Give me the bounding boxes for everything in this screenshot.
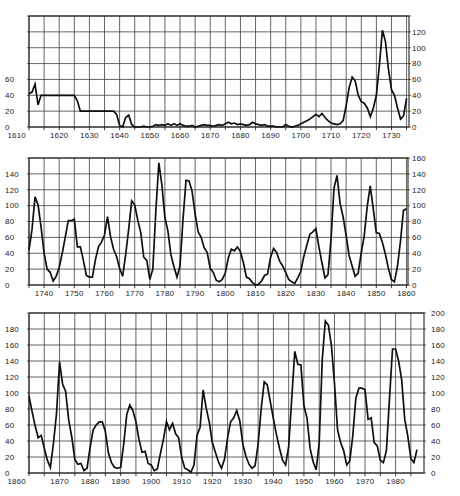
grid bbox=[27, 16, 411, 130]
y-tick-label: 0 bbox=[5, 469, 10, 478]
y-tick-labels-left: 140120100806040200 bbox=[5, 170, 19, 290]
x-tick-label: 1640 bbox=[110, 131, 129, 140]
y-tick-label: 20 bbox=[5, 107, 15, 116]
x-tick-label: 1770 bbox=[125, 289, 144, 298]
y-tick-label: 0 bbox=[431, 469, 436, 478]
x-tick-label: 1810 bbox=[246, 289, 265, 298]
x-tick-label: 1710 bbox=[322, 131, 341, 140]
y-tick-label: 120 bbox=[5, 186, 19, 195]
x-tick-label: 1980 bbox=[386, 477, 405, 486]
y-tick-label: 40 bbox=[412, 91, 422, 100]
y-tick-label: 120 bbox=[5, 373, 19, 382]
y-tick-label: 140 bbox=[412, 170, 426, 179]
y-tick-label: 40 bbox=[5, 437, 15, 446]
x-tick-label: 1830 bbox=[307, 289, 326, 298]
y-tick-label: 0 bbox=[412, 281, 417, 290]
y-tick-label: 120 bbox=[412, 186, 426, 195]
y-tick-label: 120 bbox=[431, 373, 445, 382]
y-tick-label: 100 bbox=[431, 389, 445, 398]
y-tick-label: 160 bbox=[412, 154, 426, 163]
x-tick-labels: 1860187018801890190019101920193019401950… bbox=[7, 477, 405, 486]
x-tick-label: 1610 bbox=[7, 131, 26, 140]
y-tick-label: 40 bbox=[5, 249, 15, 258]
x-tick-label: 1960 bbox=[325, 477, 344, 486]
y-tick-label: 60 bbox=[412, 233, 422, 242]
x-tick-label: 1700 bbox=[292, 131, 311, 140]
x-tick-label: 1680 bbox=[231, 131, 250, 140]
y-tick-label: 100 bbox=[412, 201, 426, 210]
x-tick-label: 1730 bbox=[382, 131, 401, 140]
x-tick-label: 1910 bbox=[172, 477, 191, 486]
y-tick-label: 80 bbox=[431, 405, 441, 414]
x-tick-label: 1820 bbox=[276, 289, 295, 298]
x-tick-labels: 1740175017601770178017901800181018201830… bbox=[35, 289, 416, 298]
x-tick-label: 1850 bbox=[367, 289, 386, 298]
y-tick-label: 40 bbox=[431, 437, 441, 446]
x-tick-label: 1660 bbox=[171, 131, 190, 140]
x-tick-label: 1970 bbox=[356, 477, 375, 486]
x-tick-label: 1780 bbox=[156, 289, 175, 298]
y-tick-label: 180 bbox=[5, 325, 19, 334]
y-tick-label: 20 bbox=[431, 453, 441, 462]
y-tick-label: 120 bbox=[412, 28, 426, 37]
x-tick-label: 1800 bbox=[216, 289, 235, 298]
y-tick-label: 160 bbox=[5, 341, 19, 350]
y-tick-label: 80 bbox=[412, 217, 422, 226]
y-tick-label: 60 bbox=[5, 421, 15, 430]
y-tick-label: 140 bbox=[431, 357, 445, 366]
y-tick-label: 0 bbox=[412, 123, 417, 132]
y-tick-label: 0 bbox=[5, 281, 10, 290]
y-tick-label: 60 bbox=[5, 233, 15, 242]
x-tick-label: 1750 bbox=[65, 289, 84, 298]
y-tick-label: 160 bbox=[431, 341, 445, 350]
y-tick-label: 100 bbox=[412, 44, 426, 53]
y-tick-label: 200 bbox=[431, 309, 445, 318]
y-tick-labels-right: 120100806040200 bbox=[412, 28, 426, 132]
sunspot-figure-svg: 1610162016301640165016601670168016901700… bbox=[0, 0, 460, 496]
y-tick-labels-right: 200180160140120100806040200 bbox=[431, 309, 445, 478]
x-tick-label: 1870 bbox=[50, 477, 69, 486]
y-tick-label: 60 bbox=[5, 75, 15, 84]
y-tick-label: 80 bbox=[5, 217, 15, 226]
x-tick-label: 1620 bbox=[50, 131, 69, 140]
y-tick-label: 40 bbox=[5, 91, 15, 100]
sunspot-series-line bbox=[29, 30, 407, 127]
x-tick-label: 1920 bbox=[203, 477, 222, 486]
y-tick-label: 80 bbox=[412, 59, 422, 68]
x-tick-label: 1630 bbox=[80, 131, 99, 140]
y-tick-labels-left: 6040200 bbox=[5, 75, 15, 132]
y-tick-label: 20 bbox=[412, 107, 422, 116]
sunspot-number-figure: 1610162016301640165016601670168016901700… bbox=[0, 0, 460, 496]
y-tick-labels-right: 160140120100806040200 bbox=[412, 154, 426, 290]
y-tick-label: 140 bbox=[5, 357, 19, 366]
x-tick-label: 1900 bbox=[142, 477, 161, 486]
y-tick-label: 40 bbox=[412, 249, 422, 258]
x-tick-label: 1890 bbox=[111, 477, 130, 486]
y-tick-label: 0 bbox=[5, 123, 10, 132]
y-tick-label: 180 bbox=[431, 325, 445, 334]
x-tick-label: 1740 bbox=[35, 289, 54, 298]
x-tick-label: 1840 bbox=[337, 289, 356, 298]
y-tick-label: 100 bbox=[5, 201, 19, 210]
x-tick-label: 1670 bbox=[201, 131, 220, 140]
y-tick-label: 20 bbox=[5, 265, 15, 274]
x-tick-label: 1860 bbox=[397, 289, 416, 298]
x-tick-labels: 1610162016301640165016601670168016901700… bbox=[7, 131, 401, 140]
y-tick-label: 20 bbox=[412, 265, 422, 274]
x-tick-label: 1760 bbox=[95, 289, 114, 298]
y-tick-label: 60 bbox=[412, 75, 422, 84]
x-tick-label: 1940 bbox=[264, 477, 283, 486]
x-tick-label: 1880 bbox=[81, 477, 100, 486]
x-tick-label: 1860 bbox=[7, 477, 26, 486]
x-tick-label: 1650 bbox=[141, 131, 160, 140]
panel-1735-1860: 1740175017601770178017901800181018201830… bbox=[5, 154, 426, 298]
y-tick-label: 100 bbox=[5, 389, 19, 398]
x-tick-label: 1930 bbox=[234, 477, 253, 486]
sunspot-series-line bbox=[29, 321, 417, 472]
y-tick-label: 60 bbox=[431, 421, 441, 430]
y-tick-label: 80 bbox=[5, 405, 15, 414]
sunspot-series-line bbox=[29, 163, 406, 285]
panel-1860-1989: 1860187018801890190019101920193019401950… bbox=[5, 309, 445, 486]
y-tick-label: 20 bbox=[5, 453, 15, 462]
x-tick-label: 1790 bbox=[186, 289, 205, 298]
